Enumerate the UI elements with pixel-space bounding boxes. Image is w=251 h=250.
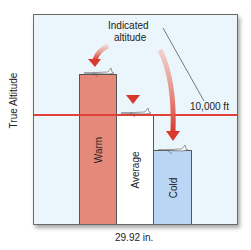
airplane-icon-average: [121, 108, 151, 117]
airplane-icon-cold: [158, 145, 188, 154]
indicated-altitude-label-line2: altitude: [114, 32, 146, 43]
y-axis-label: True Altitude: [8, 73, 19, 129]
arrow-warm-icon: [88, 46, 108, 67]
x-axis-label: 29.92 in.: [115, 232, 153, 243]
arrow-average-icon: [126, 55, 140, 104]
indicated-altitude-label-line1: Indicated: [108, 20, 149, 31]
10000ft-label: 10,000 ft: [190, 101, 229, 112]
airplane-icon-warm: [84, 68, 114, 77]
arrow-cold-icon: [160, 50, 180, 141]
